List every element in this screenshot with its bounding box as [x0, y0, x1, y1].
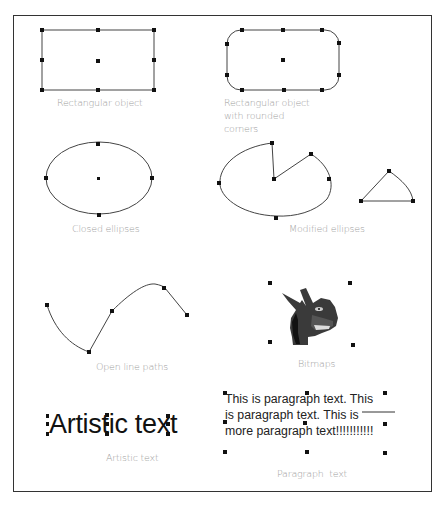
caption-line: corners [224, 122, 310, 135]
rounded-rectangle-object[interactable] [225, 28, 341, 92]
caption-rounded-rectangle: Rectangular object with rounded corners [224, 96, 310, 135]
paragraph-line: This is paragraph text. This [225, 391, 395, 407]
selection-handles [225, 28, 341, 92]
caption-line: with rounded [224, 109, 310, 122]
dragon-bitmap-icon [282, 288, 338, 345]
selection-handles [45, 286, 189, 354]
bitmap-object[interactable] [268, 281, 355, 347]
caption-line: Rectangular object [224, 96, 310, 109]
closed-ellipse-object[interactable] [44, 142, 154, 217]
caption-artistic-text: Artistic text [106, 451, 158, 464]
artistic-text-object[interactable]: Artistic text [49, 409, 177, 439]
paragraph-line: more paragraph text!!!!!!!!!!! [225, 423, 395, 439]
caption-rectangle: Rectangular object [57, 96, 143, 109]
caption-closed-ellipse: Closed ellipses [72, 222, 139, 235]
caption-paragraph-text: Paragraph text [277, 467, 347, 480]
open-line-path-object[interactable] [45, 284, 189, 354]
arc-wedge-object[interactable] [359, 169, 415, 203]
selection-handles [217, 141, 331, 220]
rectangle-object[interactable] [40, 28, 156, 92]
selection-handles [40, 28, 156, 92]
caption-bitmap: Bitmaps [298, 357, 335, 370]
paragraph-text-object[interactable]: This is paragraph text. This is paragrap… [225, 391, 395, 439]
caption-modified-ellipses: Modified ellipses [289, 222, 365, 235]
paragraph-line: is paragraph text. This is [225, 407, 395, 423]
pie-ellipse-object[interactable] [217, 141, 331, 220]
caption-open-line-path: Open line paths [96, 360, 168, 373]
